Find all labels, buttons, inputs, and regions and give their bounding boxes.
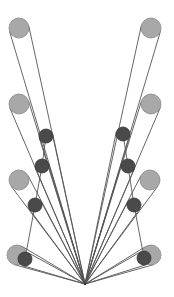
left-belt-small-2 <box>36 169 85 284</box>
right-small-pulley-1 <box>116 127 130 141</box>
right-small-pulley-2 <box>121 159 135 173</box>
right-small-pulley-4 <box>137 251 151 265</box>
left-large-pulley-1 <box>9 18 29 38</box>
left-belt-small-4 <box>23 266 85 284</box>
left-belt-small-1 <box>53 135 85 284</box>
belt-lines <box>9 26 160 284</box>
left-small-pulley-4 <box>18 252 32 266</box>
left-small-pulley-3 <box>28 198 42 212</box>
small-pulleys <box>18 127 151 266</box>
right-belt-small-1 <box>85 133 116 284</box>
left-small-pulley-1 <box>39 129 53 143</box>
diagram-canvas <box>0 0 174 297</box>
right-small-pulley-3 <box>127 198 141 212</box>
left-small-pulley-2 <box>35 159 49 173</box>
link-lines <box>25 134 144 259</box>
right-large-pulley-1 <box>141 18 161 38</box>
right-large-pulley-2 <box>141 94 161 114</box>
apex-point <box>84 283 86 285</box>
left-large-pulley-2 <box>9 94 29 114</box>
left-large-pulley-3 <box>9 170 29 190</box>
right-large-pulley-3 <box>140 170 160 190</box>
right-belt-small-4 <box>85 265 146 284</box>
pendulum-diagram <box>0 0 174 297</box>
